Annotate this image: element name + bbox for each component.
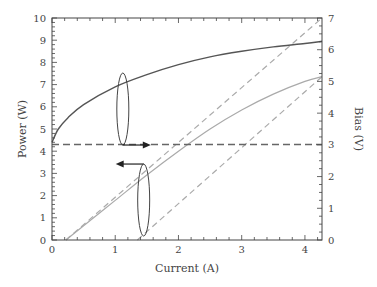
series-bias bbox=[66, 77, 322, 240]
x-axis-label: Current (A) bbox=[155, 262, 219, 275]
x-tick-label: 1 bbox=[112, 244, 118, 255]
series-bias-linear-fit-upper- bbox=[66, 18, 322, 240]
y-left-tick-label: 2 bbox=[40, 190, 46, 201]
y-right-tick-label: 7 bbox=[328, 13, 334, 24]
y-left-tick-label: 10 bbox=[33, 13, 46, 24]
x-tick-label: 2 bbox=[175, 244, 181, 255]
y-left-tick-label: 0 bbox=[40, 235, 46, 246]
y-right-tick-label: 6 bbox=[328, 44, 334, 55]
plot-area bbox=[52, 18, 322, 240]
x-tick-label: 3 bbox=[239, 244, 245, 255]
x-tick-label: 0 bbox=[49, 244, 55, 255]
y-axis-label-left: Power (W) bbox=[16, 100, 29, 158]
y-left-tick-label: 7 bbox=[40, 79, 46, 90]
y-left-tick-label: 3 bbox=[40, 168, 46, 179]
y-left-tick-label: 1 bbox=[40, 212, 46, 223]
arrow-right-icon bbox=[143, 142, 151, 149]
y-left-tick-label: 5 bbox=[40, 124, 46, 135]
arrow-left-icon bbox=[116, 161, 124, 168]
y-right-tick-label: 2 bbox=[328, 171, 334, 182]
y-right-tick-label: 3 bbox=[328, 139, 334, 150]
y-right-tick-label: 0 bbox=[328, 235, 334, 246]
y-right-tick-label: 1 bbox=[328, 203, 334, 214]
x-tick-label: 4 bbox=[302, 244, 308, 255]
axes-frame bbox=[52, 18, 322, 240]
annotation-ellipse-bias bbox=[138, 164, 150, 236]
series-power bbox=[52, 41, 322, 142]
y-right-tick-label: 4 bbox=[328, 108, 334, 119]
series-bias-linear-fit-lower- bbox=[137, 77, 322, 240]
chart: 0123401234567891001234567 Current (A) Po… bbox=[0, 0, 377, 287]
axes: 0123401234567891001234567 bbox=[33, 13, 334, 256]
y-left-tick-label: 9 bbox=[40, 35, 46, 46]
y-axis-label-right: Bias (V) bbox=[352, 107, 365, 151]
y-left-tick-label: 6 bbox=[40, 101, 46, 112]
y-right-tick-label: 5 bbox=[328, 76, 334, 87]
y-left-tick-label: 8 bbox=[40, 57, 46, 68]
y-left-tick-label: 4 bbox=[40, 146, 46, 157]
